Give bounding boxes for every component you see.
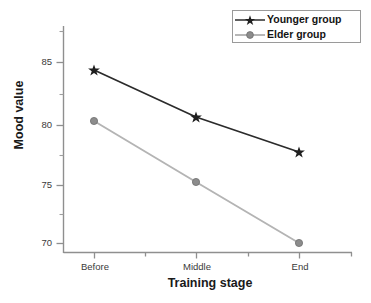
star-marker-icon: [233, 13, 267, 27]
younger-group-point-middle: [190, 111, 202, 122]
y-axis-major-ticks: [57, 63, 64, 244]
elder-group-point-end: [295, 239, 302, 246]
x-axis-ticks: [95, 253, 352, 259]
mood-value-line-chart: 85 80 75 70 Before Middle End Mood value…: [0, 0, 371, 303]
x-tick-label-end: End: [265, 261, 335, 272]
x-tick-label-before: Before: [60, 261, 130, 272]
legend-label-elder-group: Elder group: [267, 28, 326, 41]
y-tick-label-85: 85: [22, 56, 52, 67]
legend-item-elder-group: Elder group: [233, 27, 360, 42]
elder-group-point-before: [90, 117, 97, 124]
chart-legend: Younger group Elder group: [232, 10, 361, 43]
legend-label-younger-group: Younger group: [267, 13, 341, 26]
younger-group-point-before: [88, 64, 100, 75]
circle-marker-icon: [233, 28, 267, 42]
y-axis-title: Mood value: [12, 65, 26, 165]
x-tick-label-middle: Middle: [162, 261, 232, 272]
y-tick-label-80: 80: [22, 119, 52, 130]
elder-group-point-middle: [192, 178, 199, 185]
legend-item-younger-group: Younger group: [233, 12, 360, 27]
series-younger-group: [88, 64, 305, 157]
x-axis-title: Training stage: [60, 276, 360, 290]
younger-group-point-end: [293, 146, 305, 157]
plot-area: [0, 0, 371, 303]
series-elder-group: [90, 117, 302, 246]
y-tick-label-70: 70: [22, 237, 52, 248]
y-tick-label-75: 75: [22, 179, 52, 190]
